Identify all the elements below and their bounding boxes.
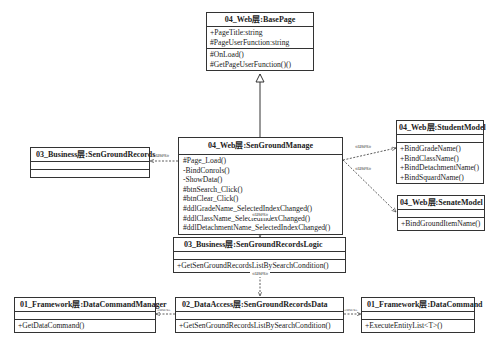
class-records-logic: 03_Business层:SenGroundRecordsLogic +GetS… [173, 237, 346, 273]
operations-section: +BindGradeName() +BindClassName() +BindD… [397, 143, 483, 183]
operations-section: +BindGroundItemName() [398, 218, 484, 230]
uses-label-manager: «uses» [157, 306, 171, 313]
class-senate-model: 04_Web层:SenateModel +BindGroundItemName(… [397, 195, 485, 231]
attributes-section: +PageTitle:string #PageUserFunction:stri… [207, 27, 313, 49]
operation: -ShowData() [183, 175, 339, 185]
class-title: 03_Business层:SenGroundRecordsLogic [174, 238, 345, 252]
operation: +ExecuteEntityList<T>() [365, 321, 471, 331]
operation: #Page_Load() [183, 156, 339, 166]
attributes-section [362, 312, 474, 320]
attributes-section [31, 162, 149, 170]
class-title: 01_Framework层:DataCommand [362, 298, 474, 312]
attributes-section [176, 312, 343, 320]
class-title: 04_Web层:StudentModel [397, 121, 483, 135]
class-data-command: 01_Framework层:DataCommand +ExecuteEntity… [361, 297, 475, 333]
class-title: 04_Web层:SenateModel [398, 196, 484, 210]
operation: +BindGroundItemName() [401, 219, 481, 229]
operation: #btnSearch_Click() [183, 185, 339, 195]
attribute: +PageTitle:string [210, 28, 310, 38]
uses-label-command: «uses» [344, 306, 358, 313]
class-title: 02_DataAccess层:SenGroundRecordsData [176, 298, 343, 312]
operation: +BindSquardName() [400, 173, 480, 183]
uses-label-student: «uses» [355, 143, 371, 150]
attributes-section [15, 312, 155, 320]
operation: #ddlDetachmentName_SelectedIndexChanged(… [183, 223, 339, 233]
operation: +BindClassName() [400, 154, 480, 164]
uses-label-logic: «uses» [250, 211, 270, 218]
attributes-section [174, 252, 345, 260]
attributes-section [397, 135, 483, 143]
class-title: 01_Framework层:DataCommandManager [15, 298, 155, 312]
class-records-data: 02_DataAccess层:SenGroundRecordsData +Get… [175, 297, 344, 333]
class-data-command-manager: 01_Framework层:DataCommandManager +GetDat… [14, 297, 156, 333]
class-sen-ground-records: 03_Business层:SenGroundRecords [30, 147, 150, 178]
class-title: 03_Business层:SenGroundRecords [31, 148, 149, 162]
operations-section: +GetDataCommand() [15, 320, 155, 332]
uses-label-data: «uses» [250, 270, 270, 277]
operation: +GetSenGroundRecordsListBySearchConditio… [179, 321, 340, 331]
uses-label-records: «uses» [153, 152, 169, 159]
uses-label-senate: «uses» [355, 165, 371, 172]
attributes-section [398, 210, 484, 218]
operations-section: +GetSenGroundRecordsListBySearchConditio… [176, 320, 343, 332]
class-title: 04_Web层:SenGroundManage [179, 138, 342, 155]
operation: +BindGradeName() [400, 144, 480, 154]
class-title: 04_Web层:BasePage [207, 13, 313, 27]
operation: #OnLoad() [210, 50, 310, 60]
operations-section: #Page_Load() -BindConrols() -ShowData() … [179, 155, 342, 234]
operations-section: #OnLoad() #GetPageUserFunction()() [207, 49, 313, 70]
attribute: #PageUserFunction:string [210, 38, 310, 48]
operation: +BindDetachmentName() [400, 163, 480, 173]
operation: #btnClear_Click() [183, 194, 339, 204]
class-sen-ground-manage: 04_Web层:SenGroundManage #Page_Load() -Bi… [178, 137, 343, 235]
operation: +GetDataCommand() [18, 321, 152, 331]
operations-section [31, 170, 149, 177]
operation: -BindConrols() [183, 166, 339, 176]
class-base-page: 04_Web层:BasePage +PageTitle:string #Page… [206, 12, 314, 71]
operations-section: +ExecuteEntityList<T>() [362, 320, 474, 332]
operation: #GetPageUserFunction()() [210, 60, 310, 70]
class-student-model: 04_Web层:StudentModel +BindGradeName() +B… [396, 120, 484, 184]
